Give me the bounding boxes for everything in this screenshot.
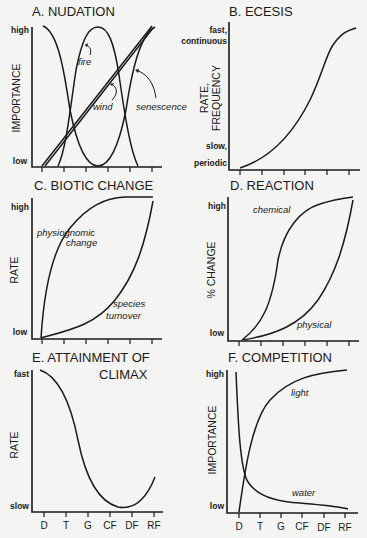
panel-d-title: D. REACTION (230, 178, 314, 193)
x-tick-label: DF (317, 522, 330, 533)
panel-a-senescence-arrow-icon (136, 70, 156, 98)
panel-c-species-label-2: turnover (106, 310, 142, 321)
x-tick-label: D (40, 520, 47, 531)
panel-e-title-2: CLIMAX (99, 367, 148, 382)
panel-a-ylabel: IMPORTANCE (10, 63, 22, 132)
x-tick-label: D (235, 521, 242, 532)
panel-f-title: F. COMPETITION (228, 350, 332, 365)
panel-d-ylabel: % CHANGE (205, 241, 217, 298)
panel-b-title: B. ECESIS (229, 4, 293, 19)
panel-e-attainment-of-climax: E. ATTAINMENT OF CLIMAX D T G CF DF RF f… (8, 350, 163, 531)
panel-a-wind-label: wind (93, 101, 113, 112)
panel-d-y-low: low (210, 328, 225, 338)
panel-b-y-low-2: periodic (194, 158, 227, 168)
panel-c-y-low: low (13, 327, 28, 337)
panel-f-ylabel: IMPORTANCE (206, 405, 218, 474)
panel-a-wind-arrow-icon (111, 84, 116, 100)
panel-f-y-low: low (210, 501, 225, 511)
succession-diagram: A. NUDATION high low IMPORTANCE fire win… (0, 0, 367, 538)
panel-a-nudation: A. NUDATION high low IMPORTANCE fire win… (10, 4, 187, 172)
panel-c-y-high: high (11, 202, 29, 212)
panel-f-competition: F. COMPETITION D T G CF DF RF high low I… (206, 350, 358, 533)
panel-a-senescence-curve (42, 26, 152, 166)
panel-e-y-high: fast (14, 369, 29, 379)
x-tick-label: RF (338, 522, 351, 533)
panel-e-climax-curve (40, 370, 155, 508)
panel-a-y-low: low (13, 156, 28, 166)
panel-b-y-low-1: slow, (206, 141, 227, 151)
x-tick-label: G (84, 520, 92, 531)
panel-e-ylabel: RATE (8, 431, 20, 458)
panel-c-ylabel: RATE (8, 256, 20, 283)
panel-c-species-label-1: species (113, 298, 145, 309)
panel-a-senescence-curve-2 (45, 28, 153, 166)
panel-f-x-tick-labels: D T G CF DF RF (235, 521, 351, 533)
panel-b-y-high-1: fast, (210, 25, 227, 35)
panel-d-physical-label: physical (296, 319, 332, 330)
panel-e-x-tick-labels: D T G CF DF RF (40, 520, 160, 531)
x-tick-label: G (277, 521, 285, 532)
panel-b-ecesis-curve (240, 28, 356, 168)
panel-f-light-label: light (291, 387, 309, 398)
x-tick-label: DF (125, 520, 138, 531)
panel-a-senescence-label: senescence (136, 101, 187, 112)
x-tick-label: RF (147, 520, 160, 531)
x-tick-label: CF (295, 521, 308, 532)
panel-a-fire-label: fire (78, 56, 91, 67)
panel-b-ylabel-2: FREQUENCY (210, 65, 222, 131)
panel-b-y-high-2: continuous (181, 36, 227, 46)
panel-a-y-high: high (11, 25, 29, 35)
x-tick-label: T (257, 521, 263, 532)
panel-d-reaction: D. REACTION high low % CHANGE chemical p… (205, 178, 359, 346)
panel-b-ecesis: B. ECESIS fast, continuous slow, periodi… (181, 4, 360, 175)
panel-a-title: A. NUDATION (32, 4, 115, 19)
x-tick-label: CF (103, 520, 116, 531)
panel-f-y-high: high (206, 369, 224, 379)
panel-d-y-high: high (208, 201, 226, 211)
panel-e-title-1: E. ATTAINMENT OF (32, 350, 150, 365)
panel-a-fire-curve (58, 27, 138, 166)
panel-e-y-low: slow (10, 501, 29, 511)
panel-b-axes (229, 22, 360, 170)
panel-d-chemical-label: chemical (253, 204, 291, 215)
panel-a-fire-arrow-icon (85, 45, 91, 55)
panel-c-physio-label-2: change (66, 237, 97, 248)
arrowhead-icon (135, 69, 139, 73)
panel-c-biotic-change: C. BIOTIC CHANGE high low RATE physiogno… (8, 178, 162, 339)
panel-d-axes (228, 197, 359, 341)
panel-c-title: C. BIOTIC CHANGE (34, 178, 154, 193)
x-tick-label: T (63, 520, 69, 531)
panel-b-ylabel-1: RATE, (198, 83, 210, 113)
panel-f-water-label: water (292, 487, 316, 498)
